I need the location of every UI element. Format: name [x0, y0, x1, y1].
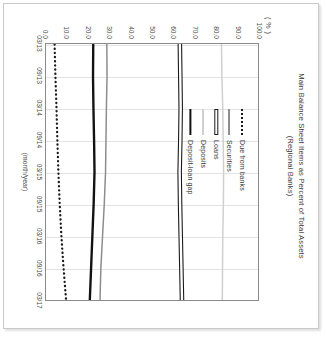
- legend-item[interactable]: Deposit-loan gap: [184, 109, 197, 259]
- x-axis-tick: 03/14: [36, 99, 43, 116]
- figure-frame: Main Balance Sheet Items as Percent of T…: [3, 3, 319, 329]
- y-axis-tick: 20.0: [84, 26, 91, 39]
- y-axis-tick: 10.0: [63, 26, 70, 39]
- x-axis-tick: 03/17: [36, 292, 43, 309]
- series-due-from-banks: [55, 44, 66, 299]
- legend-item-label: Deposits: [200, 140, 207, 168]
- y-axis-tick: 70.0: [191, 26, 198, 39]
- x-axis-tick: 09/16: [36, 260, 43, 277]
- chart-title-line-1: Main Balance Sheet Items as Percent of T…: [297, 73, 306, 259]
- x-axis-tick: 09/15: [36, 196, 43, 213]
- legend-item-label: Deposit-loan gap: [187, 140, 194, 195]
- legend-item[interactable]: Due from banks: [236, 109, 249, 259]
- legend-item-label: Securities: [226, 140, 233, 172]
- y-axis-tick: 60.0: [170, 26, 177, 39]
- legend-item-label: Due from banks: [239, 140, 246, 191]
- legend-key-glyph: [189, 109, 192, 135]
- dotted-line-key: [237, 109, 248, 135]
- lightgray-line-key: [198, 109, 209, 135]
- hollow-line-key: [211, 109, 222, 135]
- y-axis-tick: 80.0: [213, 26, 220, 39]
- legend-key-glyph: [202, 109, 204, 135]
- series-securities: [100, 44, 107, 299]
- legend-key-glyph: [228, 109, 230, 135]
- legend-item[interactable]: Loans: [210, 109, 223, 259]
- y-axis-tick: 30.0: [106, 26, 113, 39]
- legend-key-glyph: [242, 109, 244, 135]
- chart-legend: Due from banksSecuritiesLoansDepositsDep…: [184, 109, 249, 259]
- gray-line-key: [224, 109, 235, 135]
- black-line-key: [185, 109, 196, 135]
- x-axis-tick: 09/14: [36, 132, 43, 149]
- series-deposit-loan-gap: [90, 44, 95, 299]
- legend-key-glyph: [214, 109, 219, 135]
- y-axis-tick-labels: 100.090.080.070.060.050.040.030.020.010.…: [45, 13, 259, 41]
- y-axis-unit-label: ( % ): [264, 17, 273, 34]
- x-axis-tick: 03/13: [36, 35, 43, 52]
- x-axis-tick: 03/15: [36, 164, 43, 181]
- legend-item-label: Loans: [213, 140, 220, 160]
- legend-item[interactable]: Deposits: [197, 109, 210, 259]
- x-axis-tick: 03/16: [36, 228, 43, 245]
- x-axis-label: (month/year): [22, 43, 29, 301]
- series-loans: [180, 44, 182, 299]
- legend-item[interactable]: Securities: [223, 109, 236, 259]
- rotated-chart-stage: Main Balance Sheet Items as Percent of T…: [13, 13, 309, 319]
- y-axis-tick: 90.0: [234, 26, 241, 39]
- y-axis-tick: 100.0: [256, 22, 263, 39]
- chart-title: Main Balance Sheet Items as Percent of T…: [285, 13, 307, 319]
- y-axis-tick: 50.0: [149, 26, 156, 39]
- x-axis-tick: 09/13: [36, 67, 43, 84]
- chart-title-line-2: (Regional Banks): [285, 13, 296, 319]
- y-axis-tick: 40.0: [127, 26, 134, 39]
